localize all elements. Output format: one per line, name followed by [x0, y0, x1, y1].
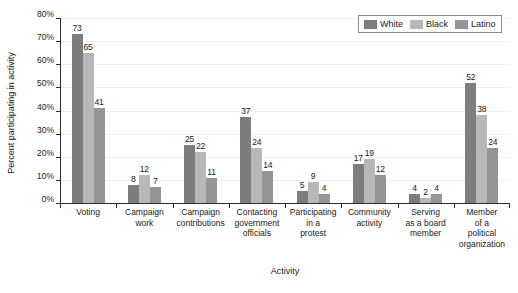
- y-axis-tick-label: 70%: [37, 33, 54, 42]
- bar: [184, 145, 195, 203]
- y-axis-tick-labels: 80%70%60%50%40%30%20%10%0%: [14, 14, 54, 204]
- bar: [375, 175, 386, 203]
- bar-value-label: 11: [202, 168, 221, 177]
- bar-value-label: 19: [360, 149, 379, 158]
- y-axis-tick-label: 50%: [37, 79, 54, 88]
- y-axis-tick-label: 0%: [42, 195, 54, 204]
- y-axis-tick-label: 30%: [37, 126, 54, 135]
- legend: WhiteBlackLatino: [358, 15, 502, 33]
- legend-swatch: [455, 20, 468, 29]
- x-axis-category-label: Memberof apoliticalorganization: [448, 207, 516, 249]
- legend-item: Latino: [455, 19, 496, 29]
- bar-value-label: 37: [236, 107, 255, 116]
- bar: [487, 148, 498, 204]
- legend-label: Latino: [471, 19, 496, 29]
- bar: [128, 185, 139, 204]
- bar-value-label: 9: [304, 172, 323, 181]
- x-axis-category-labels: VotingCampaignworkCampaigncontributionsC…: [60, 207, 510, 265]
- bar-value-label: 73: [68, 24, 87, 33]
- y-axis-tick-label: 20%: [37, 149, 54, 158]
- bar: [262, 171, 273, 203]
- bar-value-label: 65: [79, 43, 98, 52]
- bar: [319, 194, 330, 203]
- bar: [476, 115, 487, 203]
- legend-item: Black: [410, 19, 448, 29]
- legend-item: White: [364, 19, 403, 29]
- bar-value-label: 12: [371, 165, 390, 174]
- grouped-bar-chart: Percent participating in activity 80%70%…: [0, 0, 518, 293]
- bar-value-label: 4: [427, 184, 446, 193]
- bar-value-label: 7: [146, 177, 165, 186]
- bar-value-label: 24: [247, 138, 266, 147]
- bar-value-label: 41: [90, 98, 109, 107]
- bar: [251, 148, 262, 204]
- bar: [431, 194, 442, 203]
- bar: [150, 187, 161, 203]
- bar-value-label: 24: [483, 138, 502, 147]
- bar-value-label: 38: [472, 105, 491, 114]
- bar: [353, 164, 364, 203]
- bar: [206, 178, 217, 203]
- bar: [240, 117, 251, 203]
- legend-swatch: [410, 20, 423, 29]
- bar: [465, 83, 476, 203]
- bar: [72, 34, 83, 203]
- y-axis-tick-label: 60%: [37, 56, 54, 65]
- plot-area: 7365418127252211372414594171912424523824: [60, 18, 510, 203]
- x-axis-line: [60, 203, 510, 204]
- bar: [195, 152, 206, 203]
- legend-label: White: [380, 19, 403, 29]
- y-axis-tick-label: 40%: [37, 103, 54, 112]
- bar-value-label: 14: [258, 161, 277, 170]
- bar-value-label: 12: [135, 165, 154, 174]
- bar-value-label: 4: [315, 184, 334, 193]
- y-axis-tick-label: 10%: [37, 172, 54, 181]
- bar-value-label: 22: [191, 142, 210, 151]
- bar-value-label: 52: [461, 73, 480, 82]
- y-axis-line: [60, 18, 61, 203]
- bars-layer: 7365418127252211372414594171912424523824: [60, 18, 510, 203]
- bar: [94, 108, 105, 203]
- legend-swatch: [364, 20, 377, 29]
- legend-label: Black: [426, 19, 448, 29]
- y-axis-tick-label: 80%: [37, 10, 54, 19]
- x-axis-title: Activity: [60, 266, 510, 276]
- bar: [297, 191, 308, 203]
- bar: [83, 53, 94, 203]
